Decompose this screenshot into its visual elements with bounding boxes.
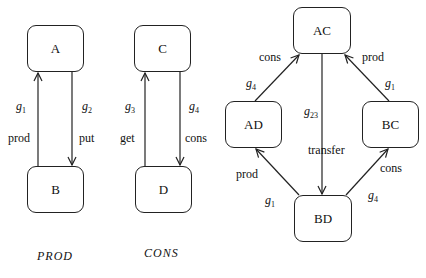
node-a: A <box>27 25 84 72</box>
caption-prod: PROD <box>37 249 73 264</box>
guard-g4-ad-ac: g4 <box>246 76 256 92</box>
label-cons-ad-ac: cons <box>259 50 281 65</box>
label-cons: cons <box>185 131 207 146</box>
label-prod-bc-ac: prod <box>362 50 384 65</box>
node-bd: BD <box>294 195 352 242</box>
guard-g1-prod: g1 <box>16 99 26 115</box>
node-ac: AC <box>293 7 351 54</box>
edge-bd-to-ad <box>256 149 299 195</box>
label-cons-bd-bc: cons <box>380 161 402 176</box>
guard-g1-bc-ac: g1 <box>385 76 395 92</box>
guard-g4-bd-bc: g4 <box>368 188 378 204</box>
label-transfer: transfer <box>308 143 345 158</box>
guard-g3-get: g3 <box>125 99 135 115</box>
guard-g1-bd-ad: g1 <box>265 193 275 209</box>
label-prod: prod <box>8 131 30 146</box>
node-c: C <box>134 25 191 72</box>
guard-g2-put: g2 <box>82 99 92 115</box>
caption-cons: CONS <box>144 246 179 261</box>
label-get: get <box>120 131 135 146</box>
node-bc: BC <box>362 101 419 148</box>
guard-g4-cons: g4 <box>189 99 199 115</box>
node-ad: AD <box>225 101 282 148</box>
label-put: put <box>79 131 94 146</box>
node-b: B <box>27 166 84 213</box>
guard-g23-ac-bd: g23 <box>304 104 318 120</box>
node-d: D <box>135 166 192 213</box>
label-prod-bd-ad: prod <box>236 167 258 182</box>
